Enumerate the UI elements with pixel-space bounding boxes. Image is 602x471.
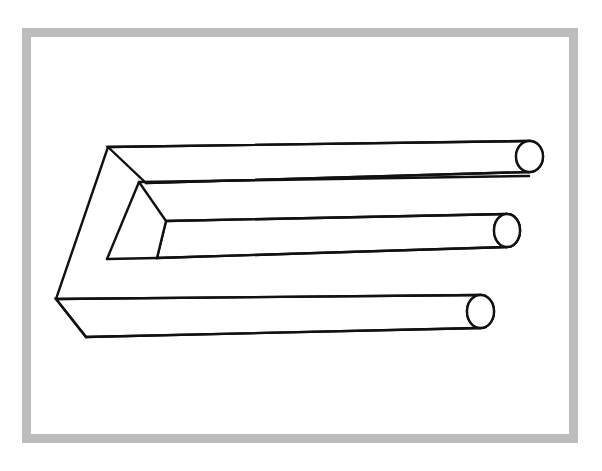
impossible-trident-figure	[0, 0, 602, 471]
page-root	[0, 0, 602, 471]
bottom-prong-cap-overlay	[467, 295, 494, 328]
drawing-canvas	[0, 0, 602, 471]
block-slot-face	[107, 182, 166, 259]
bottom-prong-group	[56, 295, 494, 337]
bottom-prong-body	[56, 295, 494, 337]
block-slot-bottom-edge	[107, 258, 157, 259]
middle-prong-cap-overlay	[494, 214, 520, 247]
top-prong-cap-overlay	[516, 141, 543, 172]
